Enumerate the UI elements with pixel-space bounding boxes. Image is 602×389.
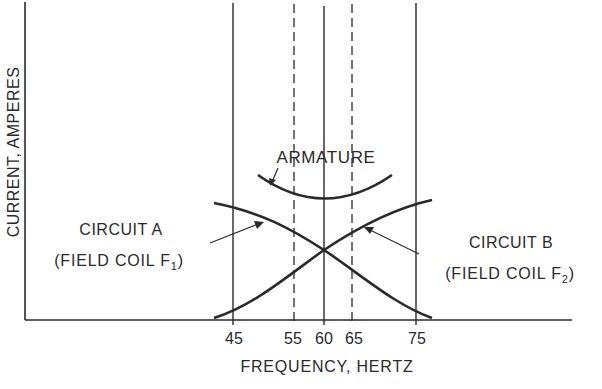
circuit-a-arrowhead	[254, 221, 264, 229]
y-axis-label: CURRENT, AMPERES	[5, 67, 22, 238]
x-tick-75: 75	[408, 330, 426, 347]
x-tick-65: 65	[345, 330, 363, 347]
circuit-b-arrowhead	[364, 227, 374, 234]
circuit-b-label-line1: CIRCUIT B	[469, 234, 553, 251]
armature-label: ARMATURE	[277, 148, 376, 167]
x-tick-60: 60	[315, 330, 333, 347]
x-tick-45: 45	[225, 330, 243, 347]
x-axis-label: FREQUENCY, HERTZ	[240, 358, 413, 375]
circuit-a-pointer	[210, 224, 258, 243]
circuit-a-label-line2: (FIELD COIL F1)	[54, 252, 184, 272]
circuit-a-curve	[214, 203, 432, 318]
circuit-b-label-line2: (FIELD COIL F2)	[445, 265, 575, 285]
circuit-b-pointer	[370, 230, 419, 254]
armature-curve	[258, 175, 392, 199]
circuit-b-curve	[214, 200, 432, 318]
circuit-a-label-line1: CIRCUIT A	[79, 221, 162, 238]
frequency-current-diagram: CURRENT, AMPERES ARMATURE CIRCUIT A (FIE…	[0, 0, 602, 389]
x-tick-55: 55	[284, 330, 302, 347]
